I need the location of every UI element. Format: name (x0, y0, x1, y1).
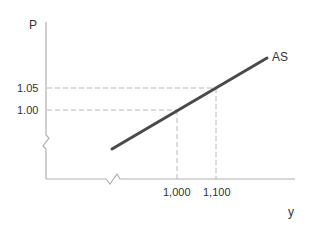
curve-label-as: AS (272, 51, 288, 63)
as-curve (112, 58, 267, 149)
y-axis (43, 22, 49, 179)
x-axis-label: y (288, 206, 294, 218)
x-axis (46, 174, 295, 184)
as-chart (0, 0, 310, 227)
y-tick-105: 1.05 (17, 83, 38, 94)
x-tick-1100: 1,100 (203, 187, 231, 198)
y-tick-100: 1.00 (17, 105, 38, 116)
y-axis-label: P (29, 19, 37, 31)
x-tick-1000: 1,000 (163, 187, 191, 198)
